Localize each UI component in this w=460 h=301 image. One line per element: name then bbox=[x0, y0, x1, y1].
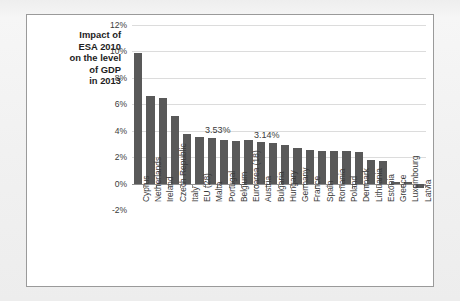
x-axis-category-label: Ireland bbox=[165, 176, 175, 202]
x-axis-category-label: Denmark bbox=[361, 168, 371, 202]
page-background: Impact ofESA 2010on the levelof GDPin 20… bbox=[0, 0, 460, 301]
x-axis-category-label: Luxembourg bbox=[410, 155, 420, 202]
x-axis-category-label: EU (28) bbox=[202, 173, 212, 202]
x-axis-category-label: Czech Republic bbox=[178, 143, 188, 202]
y-axis-tick-label: 2% bbox=[115, 152, 127, 162]
y-axis-tick-label: 10% bbox=[110, 46, 127, 56]
y-axis-tick-label: 8% bbox=[115, 73, 127, 83]
x-axis-category-label: Portugal bbox=[227, 170, 237, 201]
y-axis-tick-label: 6% bbox=[115, 99, 127, 109]
x-axis-category-label: Germany bbox=[300, 167, 310, 201]
x-axis-category-label: Romania bbox=[337, 168, 347, 202]
x-axis-category-label: Estonia bbox=[386, 174, 396, 202]
x-axis-category-label: Italy bbox=[190, 186, 200, 201]
x-axis-category-label: Euroarea (18) bbox=[251, 150, 261, 202]
x-axis-category-label: Netherlands bbox=[153, 156, 163, 201]
x-axis-category-label: Greece bbox=[398, 174, 408, 201]
chart-frame: Impact ofESA 2010on the levelof GDPin 20… bbox=[26, 14, 434, 287]
x-axis-category-label: France bbox=[312, 175, 322, 201]
y-axis-tick-label: -2% bbox=[112, 205, 127, 215]
x-axis-category-label: Latvia bbox=[423, 179, 433, 201]
plot-area: 12%10%8%6%4%2%0%-2% 3.53%3.14% CyprusNet… bbox=[27, 15, 433, 286]
x-axis-category-label: Lithuania bbox=[374, 168, 384, 202]
y-axis-tick-label: 0% bbox=[115, 179, 127, 189]
x-axis-category-label: Malta bbox=[214, 181, 224, 201]
x-axis-category-label: Belgium bbox=[239, 171, 249, 201]
y-axis-tick-label: 12% bbox=[110, 20, 127, 30]
x-axis-category-label: Bulgaria bbox=[276, 171, 286, 202]
category-labels-group: CyprusNetherlandsIrelandCzech RepublicIt… bbox=[132, 15, 426, 286]
x-axis-category-label: Cyprus bbox=[141, 175, 151, 202]
x-axis-category-label: Spain bbox=[325, 180, 335, 201]
x-axis-category-label: Poland bbox=[349, 175, 359, 201]
y-axis-tick-label: 4% bbox=[115, 126, 127, 136]
x-axis-category-label: Austria bbox=[263, 175, 273, 201]
x-axis-category-label: Hungary bbox=[288, 170, 298, 202]
